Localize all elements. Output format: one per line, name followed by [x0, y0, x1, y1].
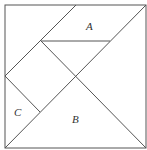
square-edge: [5, 76, 40, 112]
label-a: A: [85, 20, 93, 32]
tangram-diagram: A B C: [0, 0, 147, 150]
label-b: B: [72, 113, 79, 125]
anti-diagonal: [41, 41, 146, 148]
label-c: C: [14, 106, 22, 118]
